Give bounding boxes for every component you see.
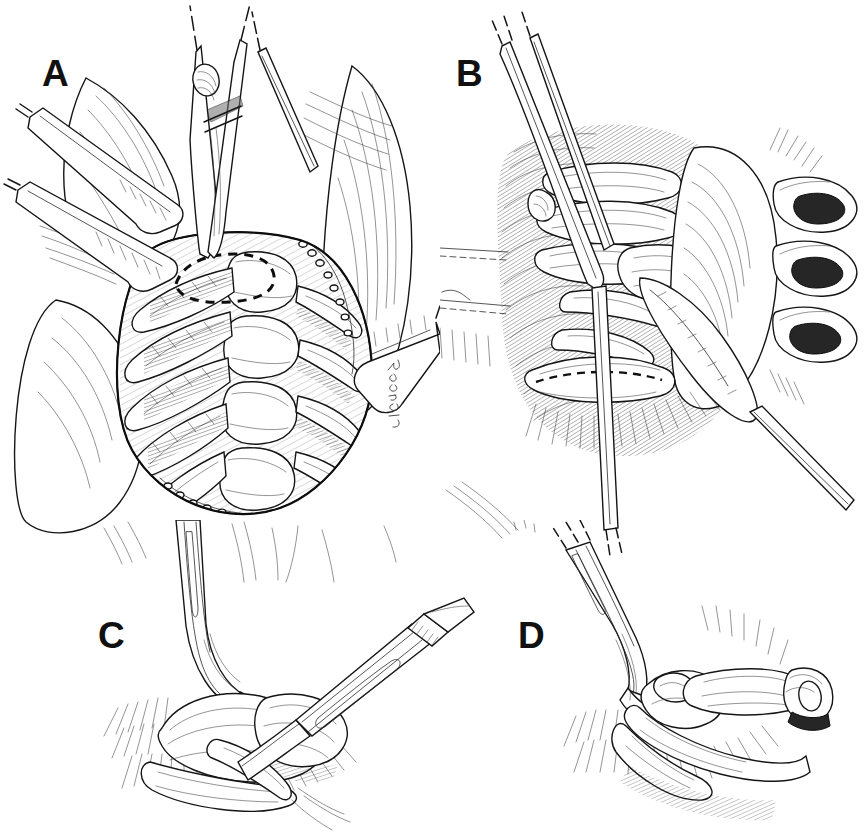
upper-fragment	[514, 520, 535, 532]
panel-label-d: D	[518, 617, 545, 654]
nerve-hook-retractor	[176, 520, 278, 716]
panel-d-artwork	[480, 520, 865, 837]
tissue-forceps	[190, 4, 318, 258]
lower-right-fronds	[292, 788, 350, 830]
panel-c: C	[60, 520, 480, 837]
cut-rib-stumps	[770, 128, 857, 404]
panel-label-c: C	[98, 617, 125, 654]
upper-tissue-strands	[104, 522, 396, 582]
panel-d: D	[480, 520, 865, 837]
scalpel	[238, 598, 474, 780]
panel-label-a: A	[42, 55, 69, 92]
panel-b-artwork	[440, 0, 865, 560]
panel-label-b: B	[456, 55, 483, 92]
panel-c-artwork	[60, 520, 480, 837]
figure-root: A	[0, 0, 865, 837]
panel-a: A	[0, 0, 440, 545]
panel-b: B	[440, 0, 865, 560]
